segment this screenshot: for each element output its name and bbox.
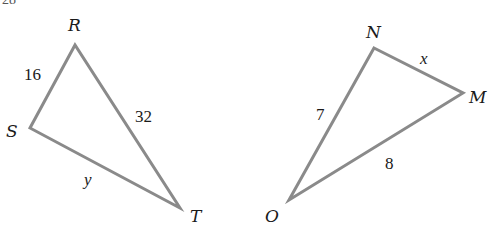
vertex-label-r: R [67, 15, 81, 35]
partial-problem-number: 28 [2, 0, 16, 7]
side-label-rs: 16 [24, 65, 41, 84]
side-label-nm: x [419, 49, 428, 68]
side-label-st: y [82, 170, 92, 189]
triangle-rst [30, 45, 180, 208]
vertex-label-o: O [265, 206, 279, 226]
triangle-nmo [289, 48, 463, 200]
side-label-no: 7 [316, 105, 325, 124]
vertex-label-t: T [190, 206, 203, 226]
vertex-label-n: N [365, 22, 382, 42]
side-label-mo: 8 [385, 154, 394, 173]
vertex-label-m: M [468, 87, 487, 107]
triangles-figure: 28 R S T 16 32 y N M O x 7 8 [0, 0, 493, 226]
side-label-rt: 32 [135, 107, 152, 126]
vertex-label-s: S [6, 121, 18, 141]
